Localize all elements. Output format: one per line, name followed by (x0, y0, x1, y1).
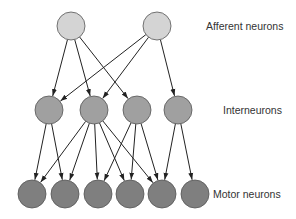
arrow-I1-M2 (52, 124, 63, 180)
motor-neuron-M3 (84, 180, 112, 208)
arrow-A2-I1 (60, 35, 145, 102)
motor-neuron-M4 (116, 180, 144, 208)
arrow-A1-I1 (53, 40, 68, 97)
arrow-I1-M1 (35, 124, 46, 180)
arrow-I4-M5 (165, 124, 176, 180)
arrow-I2-M3 (95, 124, 98, 180)
layer-labels: Afferent neuronsInterneuronsMotor neuron… (206, 20, 283, 200)
motor-neuron-M5 (148, 180, 176, 208)
interneuron-neuron-I4 (164, 96, 192, 124)
arrow-A2-I2 (103, 37, 149, 98)
arrow-A2-I4 (160, 40, 174, 96)
arrow-I4-M6 (181, 124, 192, 180)
afferent-layer-label: Afferent neurons (206, 20, 283, 32)
motor-layer-label: Motor neurons (213, 188, 281, 200)
afferent-neuron-A1 (57, 12, 85, 40)
arrow-I2-M2 (70, 123, 90, 180)
motor-neuron-M6 (181, 180, 209, 208)
interneuron-neuron-I2 (80, 96, 108, 124)
motor-neuron-M1 (18, 180, 46, 208)
afferent-neuron-A2 (143, 12, 171, 40)
interneuron-neuron-I1 (35, 96, 63, 124)
interneuron-neuron-I3 (123, 96, 151, 124)
neuron-nodes (18, 12, 209, 208)
motor-neuron-M2 (51, 180, 79, 208)
neuron-diagram: Afferent neuronsInterneuronsMotor neuron… (0, 0, 296, 219)
interneuron-layer-label: Interneurons (223, 104, 282, 116)
arrow-I3-M4 (131, 124, 136, 180)
arrow-I2-M1 (41, 121, 86, 182)
arrow-I3-M3 (104, 123, 131, 181)
